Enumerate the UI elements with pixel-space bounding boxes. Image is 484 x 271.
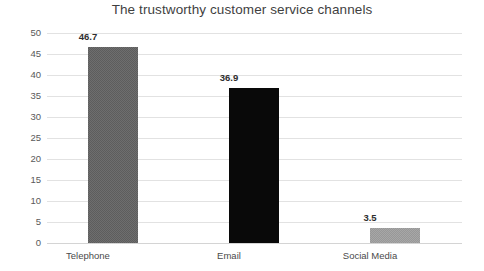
axis-baseline — [47, 243, 462, 244]
data-label-telephone: 46.7 — [63, 31, 113, 42]
chart-title: The trustworthy customer service channel… — [0, 2, 484, 17]
y-tick-label: 0 — [15, 238, 41, 248]
y-tick-label: 35 — [15, 91, 41, 101]
bar-chart: The trustworthy customer service channel… — [0, 0, 484, 271]
y-tick-label: 10 — [15, 196, 41, 206]
x-tick-label-telephone: Telephone — [48, 250, 128, 261]
y-tick-label: 5 — [15, 217, 41, 227]
y-tick-label: 25 — [15, 133, 41, 143]
y-axis: 50 45 40 35 30 25 20 15 10 5 0 — [12, 33, 41, 243]
y-tick-label: 45 — [15, 49, 41, 59]
data-label-social-media: 3.5 — [345, 212, 395, 223]
data-label-email: 36.9 — [204, 72, 254, 83]
x-tick-label-email: Email — [189, 250, 269, 261]
x-tick-label-social-media: Social Media — [330, 250, 410, 261]
bar-telephone[interactable] — [88, 47, 138, 243]
y-tick-label: 40 — [15, 70, 41, 80]
plot-area — [47, 33, 462, 243]
y-tick-label: 30 — [15, 112, 41, 122]
bar-social-media[interactable] — [370, 228, 420, 243]
y-tick-label: 20 — [15, 154, 41, 164]
y-tick-label: 15 — [15, 175, 41, 185]
bar-email[interactable] — [229, 88, 279, 243]
y-tick-label: 50 — [15, 28, 41, 38]
